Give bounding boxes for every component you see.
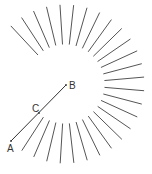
point-a-label: A — [7, 143, 14, 154]
ray-line — [11, 26, 38, 55]
ray-line — [101, 51, 137, 67]
point-b-label: B — [69, 80, 76, 91]
ray-line — [98, 39, 130, 61]
ray-line — [60, 124, 62, 163]
ray-line — [104, 94, 142, 104]
labeled-points: A B C — [7, 80, 76, 154]
ray-line — [89, 116, 112, 148]
ray-line — [22, 18, 43, 51]
ray-line — [69, 6, 73, 45]
ray-line — [76, 8, 87, 46]
ray-line — [47, 7, 56, 45]
ray-line — [76, 122, 87, 159]
ray-line — [83, 120, 100, 155]
ray-line — [98, 107, 130, 129]
ray-line — [83, 13, 100, 48]
ray-line — [47, 123, 56, 161]
point-c-label: C — [32, 103, 39, 114]
ray-line — [104, 64, 142, 74]
ray-line — [69, 124, 73, 163]
ray-line — [94, 29, 122, 56]
ray-line — [60, 5, 63, 44]
point-a-marker — [10, 140, 12, 142]
ray-line — [34, 121, 49, 157]
ray-line — [94, 112, 122, 139]
ray-line — [22, 118, 43, 151]
ray-line — [105, 87, 144, 90]
ray-line — [101, 101, 136, 117]
radial-rays — [11, 5, 144, 163]
ray-line — [105, 77, 144, 80]
radial-lines-diagram: A B C — [0, 0, 152, 174]
point-b-marker — [65, 84, 67, 86]
ray-line — [88, 20, 111, 52]
ray-line — [34, 11, 50, 47]
